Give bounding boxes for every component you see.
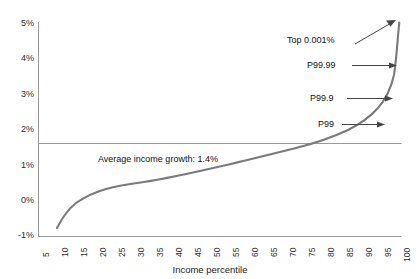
x-tick-label-15: 15: [80, 248, 89, 257]
annotation-arrow-top-0001: [355, 20, 396, 44]
annotation-label-p999: P99.9: [310, 94, 334, 103]
x-tick-label-55: 55: [232, 248, 241, 257]
x-tick-label-80: 80: [327, 248, 336, 257]
x-tick-label-95: 95: [384, 248, 393, 257]
y-tick-label-1: 1%: [6, 161, 34, 170]
annotation-label-top-0001: Top 0.001%: [287, 36, 335, 45]
annotation-label-p99: P99: [318, 120, 334, 129]
income-growth-chart: 5% 4% 3% 2% 1% 0% -1% 5 10 15 20 25 30 3…: [0, 0, 420, 279]
x-tick-label-65: 65: [270, 248, 279, 257]
y-tick-label-2: 2%: [6, 125, 34, 134]
x-tick-label-30: 30: [137, 248, 146, 257]
annotation-arrow-p999: [347, 96, 393, 102]
x-tick-label-5: 5: [42, 252, 51, 257]
x-tick-label-60: 60: [251, 248, 260, 257]
x-tick-label-85: 85: [346, 248, 355, 257]
y-tick-label-0: 0%: [6, 196, 34, 205]
chart-canvas: [0, 0, 420, 279]
x-tick-label-70: 70: [289, 248, 298, 257]
x-tick-label-75: 75: [308, 248, 317, 257]
annotation-arrow-p99: [342, 122, 385, 128]
annotation-label-p9999: P99.99: [307, 61, 336, 70]
y-tick-label-5: 5%: [6, 19, 34, 28]
x-tick-label-25: 25: [118, 248, 127, 257]
x-tick-label-50: 50: [213, 248, 222, 257]
x-tick-label-90: 90: [365, 248, 374, 257]
annotation-arrow-p9999: [352, 63, 397, 69]
y-tick-label-3: 3%: [6, 90, 34, 99]
x-tick-label-10: 10: [61, 248, 70, 257]
x-axis-title: Income percentile: [0, 265, 420, 275]
average-income-growth-label: Average income growth: 1.4%: [98, 155, 218, 164]
y-tick-label-4: 4%: [6, 54, 34, 63]
x-tick-label-100: 100: [403, 248, 412, 262]
income-growth-curve: [57, 23, 399, 229]
x-tick-label-35: 35: [156, 248, 165, 257]
x-tick-label-20: 20: [99, 248, 108, 257]
x-tick-label-40: 40: [175, 248, 184, 257]
x-tick-label-45: 45: [194, 248, 203, 257]
y-tick-label-neg1: -1%: [4, 231, 34, 240]
